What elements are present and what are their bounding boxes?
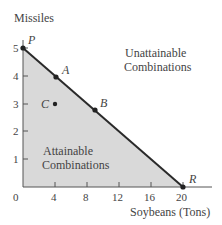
x-axis-title: Soybeans (Tons) [130, 205, 210, 219]
x-tick-8: 8 [83, 191, 89, 203]
attainable-label-line1: Attainable [43, 144, 93, 158]
label-r: R [188, 172, 197, 186]
y-tick-5: 5 [13, 42, 19, 54]
x-tick-4: 4 [51, 191, 57, 203]
y-tick-1: 1 [13, 153, 19, 165]
ppf-chart: P A B C R 5 4 3 2 1 0 4 8 12 16 20 Missi… [0, 0, 222, 225]
y-tick-4: 4 [13, 70, 19, 82]
x-tick-0: 0 [13, 191, 19, 203]
point-b [92, 107, 97, 112]
unattainable-label-line2: Combinations [124, 60, 192, 74]
label-c: C [41, 97, 50, 111]
point-r [180, 184, 185, 189]
x-tick-16: 16 [144, 191, 156, 203]
label-a: A [61, 63, 70, 77]
x-tick-20: 20 [176, 191, 188, 203]
point-p [20, 45, 25, 50]
label-p: P [27, 33, 36, 47]
y-axis-title: Missiles [14, 11, 54, 25]
y-tick-2: 2 [13, 125, 19, 137]
y-tick-3: 3 [13, 98, 19, 110]
label-b: B [100, 96, 108, 110]
x-tick-12: 12 [112, 191, 123, 203]
attainable-label-line2: Combinations [42, 158, 110, 172]
point-a [53, 74, 58, 79]
point-c [53, 102, 57, 106]
unattainable-label-line1: Unattainable [125, 46, 186, 60]
